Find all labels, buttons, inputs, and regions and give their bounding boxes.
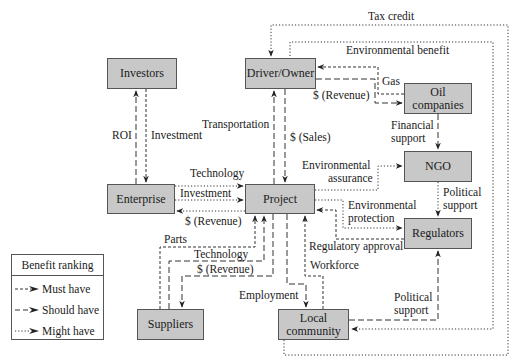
label-sales: $ (Sales)	[290, 131, 331, 144]
label-regulatory-approval: Regulatory approval	[309, 240, 403, 253]
long-dash-arrow-icon	[15, 306, 39, 314]
label-technology-suppliers: Technology	[194, 248, 248, 261]
node-driver-owner: Driver/Owner	[245, 58, 316, 89]
label-technology-enterprise: Technology	[190, 167, 244, 180]
label-political-support-community-2: support	[394, 304, 429, 317]
label-revenue-suppliers: $ (Revenue)	[197, 263, 254, 276]
label-revenue-driver: $ (Revenue)	[313, 89, 370, 102]
label-political-support-community-1: Political	[394, 291, 432, 304]
label-environmental-protection-2: protection	[348, 212, 395, 225]
legend-label: Might have	[42, 325, 95, 337]
node-investors: Investors	[107, 58, 177, 89]
legend-label: Should have	[42, 304, 99, 316]
legend-item-might-have: Might have	[12, 320, 103, 341]
label-investment-enterprise: Investment	[180, 187, 231, 200]
legend-title: Benefit ranking	[12, 255, 103, 276]
legend-label: Must have	[42, 283, 90, 295]
label-tax-credit: Tax credit	[368, 10, 414, 23]
short-dash-arrow-icon	[15, 285, 39, 293]
label-environmental-assurance-2: assurance	[328, 172, 373, 185]
label-transportation: Transportation	[202, 118, 269, 131]
label-roi: ROI	[112, 129, 132, 142]
node-regulators: Regulators	[404, 218, 472, 249]
label-political-support-ngo-2: support	[443, 199, 478, 212]
label-environmental-benefit: Environmental benefit	[346, 44, 449, 57]
label-environmental-protection-1: Environmental	[348, 199, 416, 212]
label-parts: Parts	[164, 233, 187, 246]
label-environmental-assurance-1: Environmental	[302, 159, 370, 172]
node-oil-companies: Oil companies	[404, 83, 472, 114]
label-investment-investors: Investment	[151, 129, 202, 142]
legend-item-should-have: Should have	[12, 299, 103, 320]
label-revenue-enterprise: $ (Revenue)	[185, 215, 242, 228]
label-employment: Employment	[239, 289, 298, 302]
label-financial-support-2: support	[391, 132, 426, 145]
node-local-community: Local community	[278, 309, 349, 340]
label-financial-support-1: Financial	[391, 119, 434, 132]
node-enterprise: Enterprise	[107, 184, 175, 214]
node-project: Project	[245, 184, 315, 214]
node-local-community-line2: community	[286, 325, 341, 338]
legend: Benefit ranking Must have Should have Mi…	[11, 254, 104, 340]
label-political-support-ngo-1: Political	[443, 186, 481, 199]
label-workforce: Workforce	[310, 259, 359, 272]
dotted-arrow-icon	[15, 327, 39, 335]
label-gas: Gas	[382, 75, 400, 88]
node-ngo: NGO	[404, 151, 472, 182]
node-suppliers: Suppliers	[137, 309, 204, 340]
legend-item-must-have: Must have	[12, 278, 103, 299]
node-local-community-line1: Local	[300, 312, 327, 325]
